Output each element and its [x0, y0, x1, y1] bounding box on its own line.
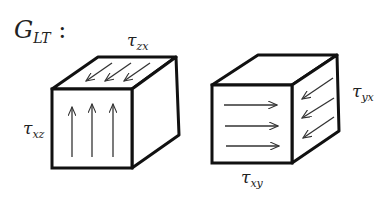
tau-xz-label: τxz: [23, 118, 45, 141]
left-cube: τzx τxz: [23, 30, 179, 168]
title-label: GLT :: [14, 16, 66, 46]
right-cube-front-face: [212, 85, 292, 163]
tau-yx-label: τyx: [352, 81, 375, 104]
right-cube: τyx τxy: [212, 55, 375, 190]
tau-xy-label: τxy: [241, 167, 264, 190]
shear-modulus-diagram: GLT : τzx τxz: [0, 0, 387, 207]
tau-zx-label: τzx: [127, 30, 149, 53]
